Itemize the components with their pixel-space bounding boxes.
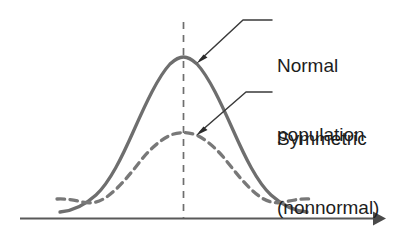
symmetric-population-label-line2: (nonnormal) (277, 196, 379, 219)
normal-population-label-line1: Normal (277, 54, 365, 77)
normal-leader-line (200, 20, 272, 60)
symmetric-population-label: Symmetric (nonnormal) population (277, 81, 379, 239)
symmetric-population-label-line1: Symmetric (277, 127, 379, 150)
normal-arrow-icon (197, 55, 208, 64)
normal-population-leader (197, 20, 273, 64)
symmetric-leader-line (200, 92, 272, 132)
statistics-distribution-figure: Normal population Symmetric (nonnormal) … (0, 0, 411, 239)
